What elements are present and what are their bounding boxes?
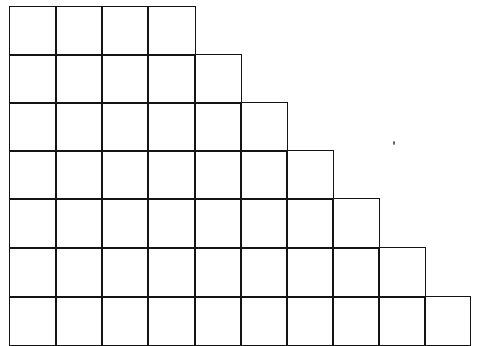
grid-cell: [240, 102, 288, 152]
grid-cell: [194, 54, 242, 104]
grid-cell: [9, 102, 57, 152]
grid-cell: [147, 150, 196, 200]
grid-cell: [9, 54, 57, 104]
grid-cell: [194, 198, 242, 249]
grid-cell: [101, 102, 149, 152]
grid-cell: [194, 150, 242, 200]
grid-cell: [286, 296, 334, 346]
grid-cell: [9, 247, 57, 298]
grid-cell: [55, 296, 103, 346]
grid-cell: [147, 247, 196, 298]
grid-cell: [332, 247, 380, 298]
grid-cell: [194, 102, 242, 152]
grid-cell: [55, 247, 103, 298]
grid-cell: [286, 247, 334, 298]
grid-cell: [9, 296, 57, 346]
grid-cell: [147, 296, 196, 346]
grid-cell: [378, 296, 426, 346]
stray-mark: [393, 141, 395, 145]
grid-cell: [240, 150, 288, 200]
grid-cell: [240, 247, 288, 298]
grid-cell: [240, 198, 288, 249]
grid-cell: [101, 150, 149, 200]
grid-cell: [286, 198, 334, 249]
grid-cell: [101, 247, 149, 298]
grid-cell: [147, 54, 196, 104]
grid-cell: [424, 296, 471, 346]
grid-cell: [55, 102, 103, 152]
grid-cell: [9, 198, 57, 249]
grid-cell: [194, 296, 242, 346]
grid-cell: [194, 247, 242, 298]
grid-cell: [332, 198, 380, 249]
grid-cell: [147, 198, 196, 249]
grid-cell: [9, 6, 57, 56]
grid-cell: [286, 150, 334, 200]
grid-cell: [101, 296, 149, 346]
grid-cell: [240, 296, 288, 346]
grid-cell: [101, 6, 149, 56]
grid-cell: [55, 150, 103, 200]
grid-cell: [55, 6, 103, 56]
grid-cell: [101, 54, 149, 104]
grid-cell: [9, 150, 57, 200]
grid-cell: [147, 6, 196, 56]
grid-cell: [101, 198, 149, 249]
grid-cell: [378, 247, 426, 298]
grid-cell: [55, 198, 103, 249]
grid-cell: [147, 102, 196, 152]
grid-cell: [55, 54, 103, 104]
grid-cell: [332, 296, 380, 346]
